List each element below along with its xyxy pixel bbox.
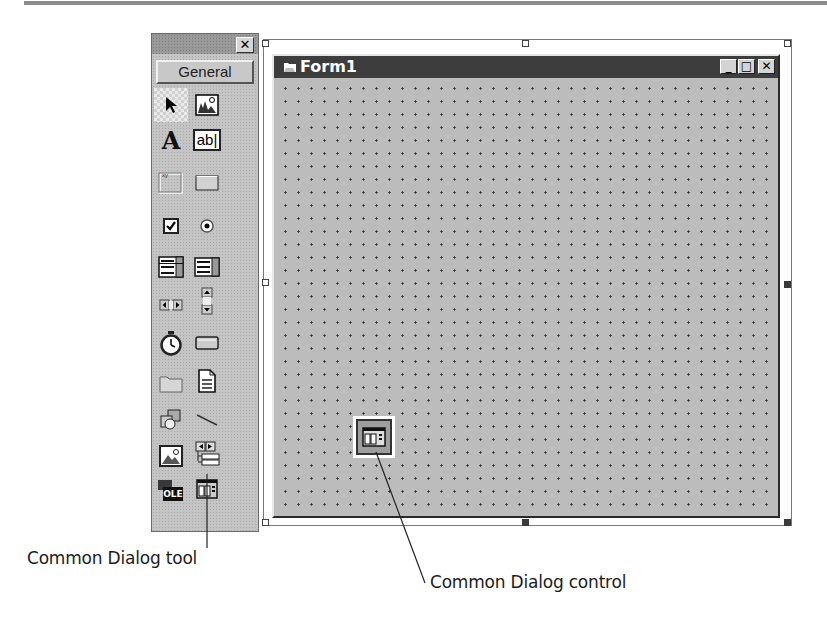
line-icon (196, 413, 218, 427)
top-rule (24, 1, 827, 5)
form-close-button[interactable]: ✕ (758, 59, 775, 74)
tool-commondialog[interactable] (190, 472, 224, 506)
resize-handle-top (522, 40, 529, 47)
form-titlebar[interactable]: Form1 _ □ ✕ (274, 56, 778, 78)
resize-handle-right[interactable] (784, 281, 791, 288)
tool-drivelistbox[interactable] (190, 326, 224, 360)
tool-ole[interactable]: OLE (154, 474, 188, 508)
tool-pointer[interactable] (154, 88, 188, 122)
frame-icon: xy (158, 171, 184, 195)
timer-icon (159, 330, 183, 356)
tool-filelistbox[interactable] (190, 364, 224, 398)
tool-checkbox[interactable] (154, 209, 188, 243)
tool-shape[interactable] (154, 403, 188, 437)
commondialog-icon (196, 479, 218, 499)
tool-commandbutton[interactable] (190, 166, 224, 200)
tool-listbox[interactable] (190, 250, 224, 284)
tool-picturebox[interactable] (190, 88, 224, 122)
svg-text:xy: xy (162, 172, 168, 178)
tool-data[interactable] (190, 437, 224, 471)
tool-frame[interactable]: xy (154, 166, 188, 200)
combobox-icon (158, 256, 184, 278)
file-icon (197, 369, 217, 393)
checkbox-icon (163, 218, 179, 234)
toolbox-close-button[interactable]: ✕ (236, 37, 254, 53)
tool-timer[interactable] (154, 326, 188, 360)
tool-optionbutton[interactable] (190, 209, 224, 243)
tool-hscrollbar[interactable] (154, 288, 188, 322)
resize-handle-bottom-right[interactable] (784, 519, 791, 526)
drive-icon (195, 336, 219, 350)
folder-icon (159, 373, 183, 393)
hscrollbar-icon (159, 299, 183, 311)
common-dialog-control[interactable] (353, 416, 395, 458)
maximize-button[interactable]: □ (738, 59, 755, 74)
form-grid-surface[interactable] (274, 78, 778, 516)
optionbutton-icon (199, 218, 215, 234)
form-title: Form1 (300, 57, 357, 77)
label-icon: A (162, 126, 181, 155)
resize-handle-bottom[interactable] (522, 519, 529, 526)
tool-textbox[interactable]: ab| (190, 123, 224, 157)
tool-line[interactable] (190, 403, 224, 437)
minimize-button[interactable]: _ (720, 59, 737, 74)
commondialog-control-icon (362, 427, 386, 447)
toolbox-titlebar[interactable]: ✕ (152, 34, 258, 54)
shape-icon (160, 409, 182, 431)
resize-handle-top-right (784, 40, 791, 47)
ole-icon: OLE (158, 480, 184, 502)
tool-image[interactable] (154, 439, 188, 473)
tool-dirlistbox[interactable] (154, 366, 188, 400)
toolbox: ✕ General A ab| xy (151, 33, 259, 532)
picturebox-icon (195, 94, 219, 116)
tab-general[interactable]: General (156, 60, 254, 84)
textbox-icon: ab| (193, 129, 222, 151)
pointer-icon (162, 95, 180, 115)
listbox-icon (194, 257, 220, 277)
commandbutton-icon (195, 175, 219, 191)
vscrollbar-icon (201, 287, 213, 315)
image-icon (159, 445, 183, 467)
tool-vscrollbar[interactable] (190, 284, 224, 318)
resize-handle-bottom-left (262, 519, 269, 526)
tool-label[interactable]: A (154, 123, 188, 157)
callout-common-dialog-tool: Common Dialog tool (27, 548, 197, 568)
form1-window: Form1 _ □ ✕ (272, 54, 780, 518)
data-icon (194, 441, 220, 467)
resize-handle-top-left (262, 40, 269, 47)
tool-combobox[interactable] (154, 250, 188, 284)
callout-common-dialog-control: Common Dialog control (430, 572, 626, 592)
resize-handle-left (262, 279, 269, 286)
form-icon (283, 61, 297, 73)
